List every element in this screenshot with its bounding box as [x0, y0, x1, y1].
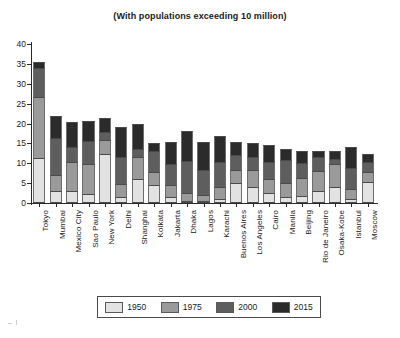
bar-segment-2015 — [50, 116, 62, 138]
bar-segment-2000 — [362, 162, 374, 172]
x-tick-mark-15 — [286, 203, 287, 207]
bar-osaka-kobe — [329, 151, 341, 203]
bar-mumbai — [50, 116, 62, 203]
bar-segment-2000 — [132, 149, 144, 157]
bar-segment-2000 — [115, 157, 127, 183]
legend-swatch-2000 — [216, 302, 234, 313]
scan-artifact-1 — [8, 323, 12, 324]
bar-segment-1950 — [247, 187, 259, 203]
x-axis-label-buenos-aires: Buenos Aires — [240, 210, 248, 258]
bar-segment-1950 — [312, 191, 324, 203]
bar-segment-2000 — [165, 164, 177, 185]
x-axis-label-lagos: Lagos — [207, 210, 215, 232]
x-tick-mark-19 — [351, 203, 352, 207]
bar-segment-2000 — [99, 132, 111, 140]
x-tick-mark-9 — [187, 203, 188, 207]
bar-segment-1975 — [115, 184, 127, 198]
legend-swatch-1975 — [161, 302, 179, 313]
bar-new-york — [99, 118, 111, 203]
bar-segment-1975 — [280, 183, 292, 197]
chart-legend: 1950 1975 2000 2015 — [97, 296, 321, 318]
legend-label-2015: 2015 — [294, 303, 313, 312]
x-axis-label-shanghai: Shanghai — [141, 210, 149, 245]
bar-segment-2000 — [247, 157, 259, 170]
bar-segment-2000 — [197, 170, 209, 195]
x-axis-label-tokyo: Tokyo — [42, 210, 50, 231]
x-axis-line — [31, 203, 378, 204]
bar-segment-1975 — [214, 187, 226, 199]
legend-label-1950: 1950 — [127, 303, 146, 312]
legend-item-1975: 1975 — [161, 302, 202, 313]
bar-tokyo — [33, 62, 45, 203]
bar-karachi — [214, 136, 226, 203]
bar-segment-1950 — [263, 193, 275, 203]
bar-segment-2015 — [82, 121, 94, 141]
bar-segment-2000 — [263, 162, 275, 179]
bar-segment-1950 — [99, 154, 111, 203]
bar-segment-1975 — [263, 179, 275, 193]
bar-segment-1975 — [50, 175, 62, 191]
x-axis-label-beijing: Beijing — [305, 210, 313, 235]
bar-segment-2000 — [66, 147, 78, 162]
bar-los-angeles — [247, 143, 259, 203]
bar-segment-1975 — [66, 162, 78, 191]
bar-kolkata — [148, 143, 160, 203]
bar-moscow — [362, 154, 374, 203]
bar-istanbul — [345, 147, 357, 203]
bar-series-group — [31, 44, 376, 203]
bar-segment-1950 — [362, 182, 374, 203]
bar-shanghai — [132, 124, 144, 203]
bar-segment-1950 — [33, 158, 45, 203]
x-tick-mark-18 — [335, 203, 336, 207]
x-axis-label-mexico-city: Mexico City — [75, 210, 83, 252]
x-axis-label-mumbai: Mumbai — [59, 210, 67, 239]
x-axis-label-los-angeles: Los Angeles — [256, 210, 264, 255]
bar-beijing — [296, 151, 308, 203]
x-tick-mark-5 — [121, 203, 122, 207]
x-tick-mark-7 — [154, 203, 155, 207]
x-axis-label-sao-paulo: Sao Paulo — [92, 210, 100, 248]
bar-segment-2015 — [345, 147, 357, 168]
bar-segment-1950 — [148, 185, 160, 203]
bar-segment-2015 — [148, 143, 160, 151]
bar-segment-2015 — [230, 142, 242, 155]
bar-lagos — [197, 142, 209, 203]
x-tick-mark-8 — [171, 203, 172, 207]
x-axis-label-new-york: New York — [108, 210, 116, 245]
legend-label-1975: 1975 — [183, 303, 202, 312]
bar-cairo — [263, 145, 275, 203]
x-tick-mark-20 — [368, 203, 369, 207]
bar-segment-1950 — [132, 179, 144, 203]
bar-segment-1975 — [247, 170, 259, 187]
x-axis-label-cairo: Cairo — [272, 210, 280, 230]
bar-segment-2000 — [312, 157, 324, 171]
x-tick-mark-12 — [236, 203, 237, 207]
bar-segment-1975 — [230, 170, 242, 182]
bar-segment-2015 — [362, 154, 374, 163]
x-tick-mark-1 — [56, 203, 57, 207]
bar-segment-2015 — [165, 142, 177, 164]
bar-segment-2015 — [280, 149, 292, 160]
bar-segment-1950 — [82, 194, 94, 203]
bar-jakarta — [165, 142, 177, 203]
bar-segment-2015 — [197, 142, 209, 169]
x-axis-label-rio-de-janeiro: Rio de Janeiro — [322, 210, 330, 263]
x-axis-label-osaka-kobe: Osaka-Kobe — [338, 210, 346, 255]
population-bar-chart: (With populations exceeding 10 million) … — [0, 0, 400, 338]
bar-segment-2015 — [247, 143, 259, 156]
x-tick-mark-4 — [105, 203, 106, 207]
x-axis-label-kolkata: Kolkata — [157, 210, 165, 237]
bar-segment-2000 — [280, 160, 292, 183]
x-tick-mark-17 — [319, 203, 320, 207]
bar-segment-1975 — [296, 178, 308, 196]
x-tick-mark-11 — [220, 203, 221, 207]
bar-segment-1975 — [329, 164, 341, 186]
x-tick-mark-13 — [253, 203, 254, 207]
chart-title: (With populations exceeding 10 million) — [0, 11, 400, 21]
bar-segment-2000 — [345, 168, 357, 189]
x-tick-mark-3 — [89, 203, 90, 207]
bar-segment-2015 — [66, 122, 78, 147]
x-axis-label-moscow: Moscow — [371, 210, 379, 240]
bar-segment-2000 — [214, 162, 226, 187]
bar-segment-1975 — [33, 97, 45, 158]
